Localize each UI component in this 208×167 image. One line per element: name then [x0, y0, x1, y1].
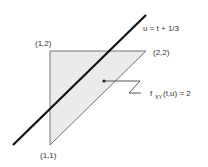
- vertex-label-1-1: (1,1): [40, 151, 57, 160]
- density-label-rest: (t,u) = 2: [163, 89, 191, 98]
- vertex-label-1-2: (1,2): [35, 39, 52, 48]
- density-label-sub: XY: [155, 94, 163, 100]
- diagram-canvas: u = t + 1/3 (1,2) (2,2) (1,1) f XY (t,u)…: [0, 0, 208, 167]
- triangle-region: [50, 51, 146, 145]
- density-label-f: f: [150, 89, 153, 98]
- diagram-svg: u = t + 1/3 (1,2) (2,2) (1,1) f XY (t,u)…: [0, 0, 208, 167]
- vertex-label-2-2: (2,2): [153, 48, 170, 57]
- line-u-equals-t-plus-third: [13, 15, 146, 145]
- line-label: u = t + 1/3: [143, 24, 180, 33]
